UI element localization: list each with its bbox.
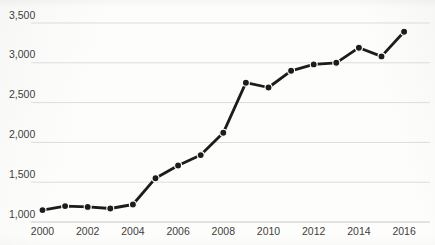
x-tick-label: 2016	[392, 225, 416, 237]
y-tick-label: 3,500	[9, 9, 35, 21]
data-point-2014	[355, 44, 362, 51]
data-point-2004	[129, 201, 136, 208]
data-point-2000	[39, 207, 46, 214]
data-point-2016	[401, 28, 408, 35]
data-point-2006	[175, 162, 182, 169]
y-tick-label: 2,500	[9, 88, 35, 100]
x-tick-label: 2000	[31, 225, 55, 237]
line-chart: 1,0001,5002,0002,5003,0003,5002000200220…	[0, 0, 435, 245]
data-point-2009	[242, 79, 249, 86]
data-point-2011	[288, 67, 295, 74]
x-tick-label: 2012	[302, 225, 326, 237]
x-tick-label: 2006	[166, 225, 190, 237]
data-point-2001	[62, 203, 69, 210]
scanned-line-chart-page: 1,0001,5002,0002,5003,0003,5002000200220…	[0, 0, 435, 245]
x-tick-label: 2010	[257, 225, 281, 237]
data-point-2010	[265, 84, 272, 91]
x-tick-label: 2002	[76, 225, 100, 237]
data-point-2008	[220, 129, 227, 136]
y-tick-label: 1,000	[9, 208, 35, 220]
x-tick-label: 2014	[347, 225, 371, 237]
data-point-2013	[333, 59, 340, 66]
y-tick-label: 2,000	[9, 128, 35, 140]
series-line	[43, 32, 405, 210]
y-tick-label: 1,500	[9, 168, 35, 180]
data-point-2005	[152, 175, 159, 182]
data-point-2007	[197, 152, 204, 159]
y-tick-label: 3,000	[9, 48, 35, 60]
data-point-2012	[310, 61, 317, 68]
data-point-2003	[107, 205, 114, 212]
data-point-2015	[378, 53, 385, 60]
x-tick-label: 2004	[121, 225, 145, 237]
x-tick-label: 2008	[212, 225, 236, 237]
data-point-2002	[84, 203, 91, 210]
